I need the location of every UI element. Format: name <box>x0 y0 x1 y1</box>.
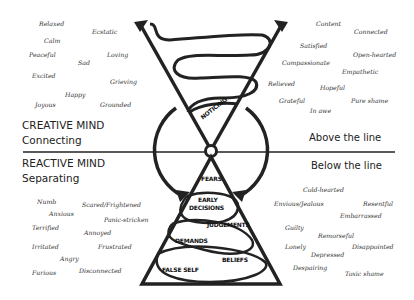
emotion-word: Open-hearted <box>353 51 396 58</box>
creative-mind-title: CREATIVE MIND <box>22 119 104 131</box>
emotion-word: Depressed <box>311 251 344 258</box>
emotion-word: Panic-stricken <box>104 216 149 223</box>
emotion-word: Excited <box>32 72 56 79</box>
emotion-word: Grounded <box>100 101 131 108</box>
pyramid-label-beliefs: BELIEFS <box>222 256 248 263</box>
emotion-word: Irritated <box>32 243 59 250</box>
emotion-word: Guilty <box>285 224 304 231</box>
emotion-word: Satisfied <box>300 42 327 49</box>
emotion-word: Loving <box>107 51 128 58</box>
pyramid-label-judgements: JUDGEMENTS <box>207 221 250 228</box>
emotion-word: Hopeful <box>320 84 345 91</box>
emotion-word: Peaceful <box>29 51 56 58</box>
arrowhead-top-left <box>134 20 148 32</box>
reactive-mind-title: REACTIVE MIND <box>22 157 105 169</box>
reactive-mind-subtitle: Separating <box>22 172 79 184</box>
emotion-word: Content <box>316 20 341 27</box>
emotion-word: Grieving <box>110 78 137 85</box>
emotion-word: Lonely <box>285 243 306 250</box>
emotion-word: Disappointed <box>352 243 394 250</box>
emotion-word: Grateful <box>279 97 305 104</box>
emotion-word: Sad <box>78 59 90 66</box>
emotion-word: Connected <box>354 28 388 35</box>
emotion-word: Joyous <box>35 101 56 108</box>
above-the-line-label: Above the line <box>309 132 381 143</box>
pyramid-label-decisions: DECISIONS <box>189 204 224 211</box>
emotion-word: Happy <box>65 91 86 98</box>
pyramid-label-early: EARLY <box>198 196 218 203</box>
funnel-left-arm <box>140 24 211 150</box>
emotion-word: Scared/Frightened <box>82 201 141 208</box>
emotion-word: Compassionate <box>282 59 330 66</box>
emotion-word: Annoyed <box>84 229 111 236</box>
emotion-word: Remorseful <box>318 232 354 239</box>
arrowhead-top-right <box>274 20 288 32</box>
creative-mind-subtitle: Connecting <box>22 134 82 146</box>
emotion-word: Resentful <box>363 200 393 207</box>
pyramid-label-false-self: FALSE SELF <box>162 266 199 273</box>
emotion-word: In awe <box>310 107 331 114</box>
below-the-line-label: Below the line <box>311 160 382 171</box>
emotion-word: Toxic shame <box>345 270 384 277</box>
emotion-word: Angry <box>60 255 79 262</box>
emotion-word: Furious <box>32 269 56 276</box>
emotion-word: Envious/Jealous <box>274 200 324 207</box>
emotion-word: Pure shame <box>351 97 388 104</box>
emotion-word: Calm <box>44 37 60 44</box>
emotion-word: Frustrated <box>98 243 132 250</box>
emotion-word: Disconnected <box>79 267 122 274</box>
emotion-word: Relaxed <box>39 20 64 27</box>
emotion-word: Despairing <box>293 264 327 271</box>
emotion-word: Anxious <box>49 210 74 217</box>
emotion-word: Cold-hearted <box>303 186 344 193</box>
emotion-word: Empathetic <box>342 68 378 75</box>
emotion-word: Ecstatic <box>92 28 117 35</box>
emotion-word: Embarrassed <box>340 212 382 219</box>
emotion-word: Numb <box>37 198 56 205</box>
pyramid-label-demands: DEMANDS <box>175 237 208 244</box>
funnel-spiral <box>150 24 270 112</box>
emotion-word: Terrified <box>32 224 59 231</box>
pyramid-label-fears: FEARS <box>201 175 222 182</box>
emotion-word: Relieved <box>268 80 295 87</box>
